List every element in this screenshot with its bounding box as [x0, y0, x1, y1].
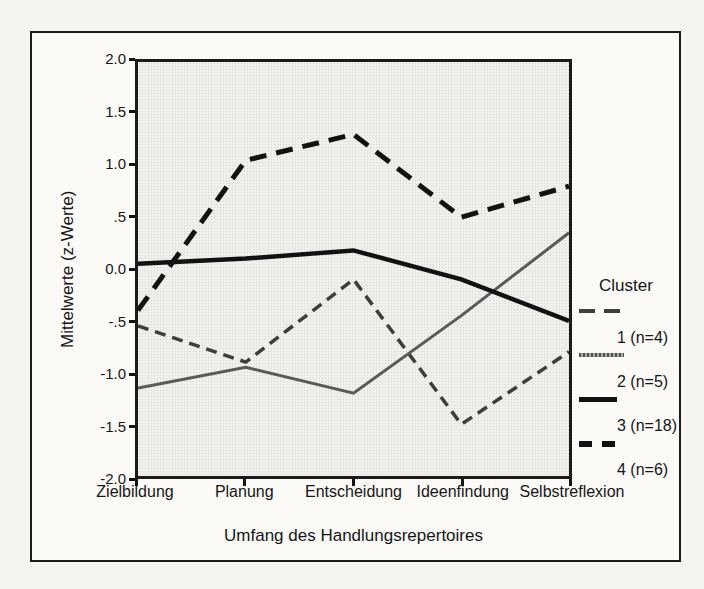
- y-axis: 2.01.51.0.50.0-.5-1.0-1.5-2.0: [32, 59, 129, 479]
- legend-swatch-hatched-gray: [579, 353, 624, 357]
- x-category-label: Ideenfindung: [416, 482, 509, 501]
- figure-frame: Mittelwerte (z-Werte) 2.01.51.0.50.0-.5-…: [30, 31, 681, 562]
- legend: Cluster 1 (n=4)2 (n=5)3 (n=18)4 (n=6): [577, 273, 683, 503]
- y-tick-label: -1.5: [36, 418, 126, 436]
- y-tick-label: -.5: [36, 313, 126, 331]
- series-line-cluster-2: [138, 233, 569, 393]
- y-tick-label: 1.5: [36, 103, 126, 121]
- y-tick-label: 1.0: [36, 155, 126, 173]
- series-line-cluster-1: [138, 279, 569, 424]
- y-tick-label: 0.0: [36, 260, 126, 278]
- y-tick-label: -1.0: [36, 365, 126, 383]
- legend-entry-label: 4 (n=6): [617, 460, 668, 479]
- x-category-label: Planung: [215, 482, 274, 501]
- x-category-label: Zielbildung: [96, 482, 173, 501]
- legend-entry-label: 1 (n=4): [617, 328, 668, 347]
- legend-swatch-dashed-thick-black: [579, 441, 624, 447]
- x-category-label: Entscheidung: [305, 482, 402, 501]
- plot-area: [135, 59, 572, 479]
- legend-swatch-dashed-thin-gray: [579, 309, 624, 313]
- y-tick-label: .5: [36, 208, 126, 226]
- legend-entry-label: 2 (n=5): [617, 372, 668, 391]
- legend-title: Cluster: [599, 276, 653, 296]
- legend-swatch-solid-thick-black: [579, 397, 617, 402]
- y-tick-label: 2.0: [36, 50, 126, 68]
- x-axis-category-labels: ZielbildungPlanungEntscheidungIdeenfindu…: [135, 482, 572, 502]
- x-axis-title: Umfang des Handlungsrepertoires: [135, 526, 572, 546]
- legend-entry-label: 3 (n=18): [617, 416, 677, 435]
- series-line-cluster-3: [138, 250, 569, 320]
- scanned-figure-page: { "figure": { "y_axis": { "title": "Mitt…: [0, 0, 704, 589]
- line-chart: [138, 62, 569, 476]
